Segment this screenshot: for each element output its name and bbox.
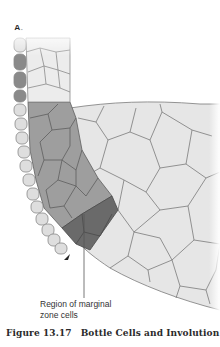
callout-line-2: zone cells bbox=[40, 310, 111, 321]
figure-caption: Figure 13.17Bottle Cells and Involution bbox=[6, 328, 219, 338]
arrowhead-icon bbox=[64, 254, 70, 260]
caption-title: Bottle Cells and Involution bbox=[81, 328, 220, 338]
caption-number: Figure 13.17 bbox=[6, 328, 72, 338]
callout-line-1: Region of marginal bbox=[40, 299, 111, 310]
callout-label: Region of marginal zone cells bbox=[40, 299, 111, 321]
cell-diagram bbox=[0, 0, 220, 320]
